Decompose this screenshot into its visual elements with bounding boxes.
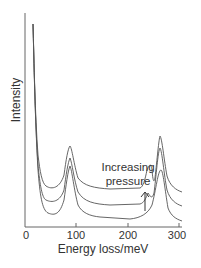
annotation-line1: Increasing <box>101 161 154 173</box>
x-axis-label: Energy loss/meV <box>58 242 149 256</box>
spectrum-chart: Increasing pressure 0 100 200 300 Energy… <box>0 0 201 268</box>
pressure-arrow <box>141 192 149 211</box>
y-axis-label: Intensity <box>9 78 23 123</box>
annotation-line2: pressure <box>106 175 151 187</box>
x-tick-200: 200 <box>119 229 137 241</box>
curve-bottom <box>33 24 182 221</box>
x-ticks <box>76 223 179 227</box>
x-tick-0: 0 <box>23 229 29 241</box>
x-tick-300: 300 <box>168 229 186 241</box>
spectra <box>33 24 182 221</box>
x-tick-100: 100 <box>67 229 85 241</box>
